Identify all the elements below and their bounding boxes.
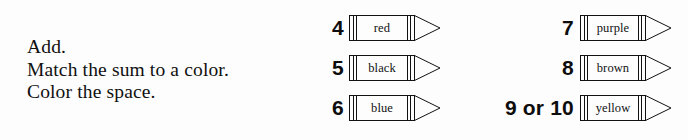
worksheet-key-strip: Add. Match the sum to a color. Color the… — [0, 0, 688, 140]
color-key-row: 7 purple — [470, 8, 680, 48]
instruction-line-3: Color the space. — [27, 81, 317, 104]
crayon-icon: brown — [580, 55, 672, 81]
crayon-color-label: yellow — [589, 95, 637, 121]
crayon-icon: red — [349, 15, 441, 41]
crayon-icon: black — [349, 55, 441, 81]
sum-label: 9 or 10 — [470, 96, 574, 120]
color-key-row: 9 or 10 yellow — [470, 88, 680, 128]
crayon-icon: yellow — [580, 95, 672, 121]
crayon-color-label: red — [358, 15, 406, 41]
instruction-line-2: Match the sum to a color. — [27, 59, 317, 82]
crayon-color-label: purple — [589, 15, 637, 41]
color-key-row: 8 brown — [470, 48, 680, 88]
instruction-line-1: Add. — [27, 36, 317, 59]
crayon-color-label: black — [358, 55, 406, 81]
instructions-block: Add. Match the sum to a color. Color the… — [27, 36, 317, 104]
color-key-column-right: 7 purple 8 — [470, 8, 680, 128]
color-key-row: 5 black — [300, 48, 450, 88]
crayon-icon: purple — [580, 15, 672, 41]
sum-label: 4 — [300, 16, 344, 40]
color-key-row: 4 red — [300, 8, 450, 48]
color-key-column-left: 4 red 5 — [300, 8, 450, 128]
sum-label: 5 — [300, 56, 344, 80]
crayon-icon: blue — [349, 95, 441, 121]
color-key-row: 6 blue — [300, 88, 450, 128]
sum-label: 7 — [470, 16, 574, 40]
sum-label: 8 — [470, 56, 574, 80]
crayon-color-label: brown — [589, 55, 637, 81]
sum-label: 6 — [300, 96, 344, 120]
crayon-color-label: blue — [358, 95, 406, 121]
